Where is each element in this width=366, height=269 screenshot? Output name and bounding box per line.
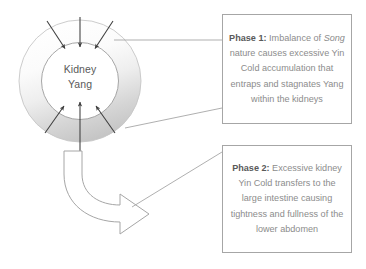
phase2-text: Phase 2: Excessive kidney Yin Cold trans…: [223, 161, 351, 237]
phase1-callout-box: Phase 1: Imbalance of Song nature causes…: [222, 14, 352, 124]
phase1-text-part2: nature causes excessive Yin Cold accumul…: [230, 48, 345, 104]
diagram-canvas: Kidney Yang Phase 1: Imbalance of Song n…: [0, 0, 366, 269]
phase2-text-body: Excessive kidney Yin Cold transfers to t…: [231, 163, 344, 234]
phase1-text-italic: Song: [324, 33, 345, 43]
phase1-label: Phase 1: [229, 33, 263, 43]
connector-phase2b: [132, 152, 222, 207]
phase1-text-part1: Imbalance of: [267, 33, 324, 43]
connector-phase2a: [125, 108, 222, 128]
phase1-text: Phase 1: Imbalance of Song nature causes…: [223, 31, 351, 107]
phase2-callout-box: Phase 2: Excessive kidney Yin Cold trans…: [222, 145, 352, 253]
transfer-block-arrow: [64, 151, 149, 234]
phase2-label: Phase 2: [232, 163, 266, 173]
